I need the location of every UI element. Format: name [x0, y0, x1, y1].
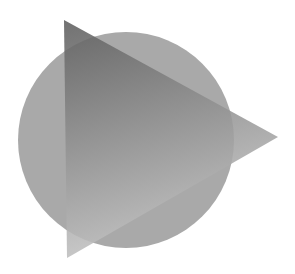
figure-svg — [0, 0, 295, 274]
figure-canvas — [0, 0, 295, 274]
